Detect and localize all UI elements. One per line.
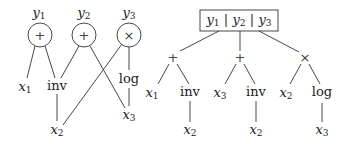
node-x1: x1 <box>18 79 31 95</box>
tree2-x3: x3 <box>213 85 226 101</box>
left-graph: y1 y2 y3 + + × x1 inv log x3 x2 <box>18 5 141 138</box>
tree3-log: log <box>312 84 332 99</box>
node-x2: x2 <box>50 122 63 138</box>
tree2-x2: x2 <box>249 122 262 138</box>
edge-root-plus1 <box>180 31 219 51</box>
node-log: log <box>119 71 139 86</box>
node-x3: x3 <box>122 107 135 123</box>
times-icon: × <box>124 28 135 43</box>
diagram-canvas: y1 y2 y3 + + × x1 inv log x3 x2 y1 | y2 … <box>0 0 347 144</box>
edge-plus1-inv <box>177 64 189 84</box>
right-tree: y1 | y2 | y3 + + × x1 inv x3 inv x2 log … <box>145 10 332 138</box>
times-icon: × <box>300 50 311 65</box>
edge-root-times <box>259 31 299 52</box>
edge-plus1-x1 <box>158 64 169 84</box>
tree3-x3: x3 <box>315 122 328 138</box>
output-label-y3: y3 <box>121 5 135 21</box>
plus-icon: + <box>235 50 246 65</box>
edge-plus2-x3 <box>225 64 236 84</box>
tree1-x1: x1 <box>145 85 158 101</box>
edge-y3-x2 <box>63 44 122 125</box>
tree1-inv: inv <box>180 84 201 99</box>
edge-plus2-inv <box>244 64 255 84</box>
root-separator: | <box>250 12 254 27</box>
plus-icon: + <box>79 28 90 43</box>
root-separator: | <box>224 12 228 27</box>
plus-icon: + <box>168 50 179 65</box>
output-label-y2: y2 <box>76 5 90 21</box>
edge-y1-inv <box>45 46 55 78</box>
tree1-x2: x2 <box>183 122 196 138</box>
plus-icon: + <box>35 28 46 43</box>
edge-times-log <box>309 64 320 84</box>
tree3-x2: x2 <box>279 85 292 101</box>
output-label-y1: y1 <box>31 5 45 21</box>
edge-y2-inv <box>61 46 79 78</box>
edge-times-x2 <box>290 64 301 84</box>
edge-y1-x1 <box>27 46 35 78</box>
tree2-inv: inv <box>246 84 267 99</box>
node-inv: inv <box>47 78 68 93</box>
